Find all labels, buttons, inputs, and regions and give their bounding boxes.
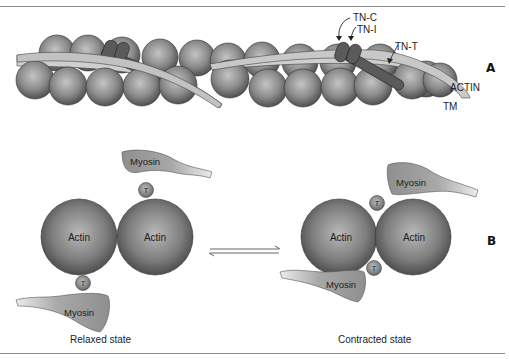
muscle-regulation-diagram: TN-C TN-I TN-T ACTIN TM A Myosin T Actin… — [0, 0, 509, 359]
t-label-top-contracted: T — [375, 199, 380, 208]
panel-label-a: A — [486, 61, 496, 75]
label-actin: ACTIN — [450, 82, 480, 93]
myosin-label-top-contracted: Myosin — [396, 177, 426, 188]
actin-label-left-contracted: Actin — [330, 232, 352, 243]
label-tn-i: TN-I — [357, 24, 376, 35]
myosin-label-bottom-relaxed: Myosin — [64, 307, 94, 318]
t-label-top-relaxed: T — [144, 186, 149, 195]
contracted-state: Myosin T Actin Actin T Myosin — [280, 163, 478, 302]
myosin-label-top-relaxed: Myosin — [130, 156, 160, 167]
myosin-label-bottom-contracted: Myosin — [326, 279, 356, 290]
t-label-bottom-contracted: T — [372, 264, 377, 273]
myosin-head-bottom-relaxed — [16, 293, 110, 332]
caption-relaxed: Relaxed state — [70, 334, 132, 345]
caption-contracted: Contracted state — [338, 334, 412, 345]
label-tn-c: TN-C — [353, 12, 377, 23]
panel-label-b: B — [487, 234, 496, 248]
label-tm: TM — [443, 101, 457, 112]
actin-label-right-relaxed: Actin — [144, 232, 166, 243]
actin-label-left-relaxed: Actin — [68, 232, 90, 243]
relaxed-state: Myosin T Actin Actin T Myosin — [16, 150, 212, 332]
t-label-bottom-relaxed: T — [81, 279, 86, 288]
actin-label-right-contracted: Actin — [403, 232, 425, 243]
thin-filament: TN-C TN-I TN-T ACTIN TM A — [16, 12, 496, 112]
equilibrium-arrows — [209, 246, 280, 256]
label-tn-t: TN-T — [395, 41, 418, 52]
